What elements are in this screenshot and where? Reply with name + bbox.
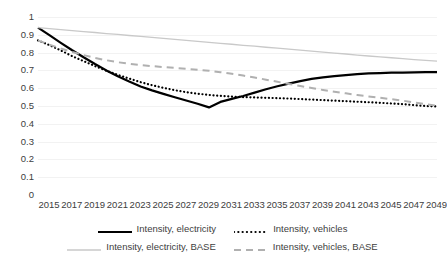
y-tick-label: 0.2 [0,154,34,164]
y-tick-label: 0.6 [0,83,34,93]
x-tick-label: 2023 [130,199,151,210]
y-tick-label: 0.3 [0,137,34,147]
legend-label: Intensity, electricity, BASE [106,241,215,252]
series-layer [38,17,437,195]
x-tick-label: 2047 [403,199,424,210]
legend-label: Intensity, vehicles [273,223,347,234]
series-line [38,28,437,61]
x-tick-label: 2031 [221,199,242,210]
legend-entry[interactable]: Intensity, electricity [98,223,217,234]
legend-entry[interactable]: Intensity, vehicles, BASE [234,241,378,252]
x-tick-label: 2049 [426,199,447,210]
x-tick-label: 2045 [380,199,401,210]
y-tick-label: 0 [0,190,34,200]
x-tick-label: 2039 [312,199,333,210]
x-tick-label: 2027 [175,199,196,210]
y-tick-label: 0.5 [0,101,34,111]
y-tick-label: 0.7 [0,65,34,75]
y-tick-label: 0.4 [0,119,34,129]
legend-label: Intensity, electricity [137,223,217,234]
x-tick-label: 2019 [84,199,105,210]
x-tick-label: 2033 [244,199,265,210]
x-tick-label: 2043 [358,199,379,210]
chart-legend: Intensity, electricityIntensity, vehicle… [0,219,445,263]
y-tick-label: 1 [0,12,34,22]
y-tick-label: 0.1 [0,172,34,182]
legend-swatch-icon [234,223,268,233]
plot-area [38,17,437,195]
y-axis: 00.10.20.30.40.50.60.70.80.91 [0,0,34,212]
x-tick-label: 2035 [266,199,287,210]
legend-swatch-icon [234,241,268,251]
x-tick-label: 2015 [38,199,59,210]
legend-row-top: Intensity, electricityIntensity, vehicle… [0,219,445,237]
legend-entry[interactable]: Intensity, electricity, BASE [67,241,215,252]
x-tick-label: 2025 [152,199,173,210]
y-tick-label: 0.8 [0,48,34,58]
legend-swatch-icon [98,223,132,233]
x-axis: 2015201720192021202320252027202920312033… [38,199,437,213]
legend-label: Intensity, vehicles, BASE [273,241,378,252]
x-tick-label: 2017 [61,199,82,210]
legend-row-bottom: Intensity, electricity, BASEIntensity, v… [0,237,445,255]
legend-swatch-icon [67,241,101,251]
y-tick-label: 0.9 [0,30,34,40]
x-tick-label: 2029 [198,199,219,210]
x-tick-label: 2041 [335,199,356,210]
x-tick-label: 2037 [289,199,310,210]
x-tick-label: 2021 [107,199,128,210]
legend-entry[interactable]: Intensity, vehicles [234,223,347,234]
